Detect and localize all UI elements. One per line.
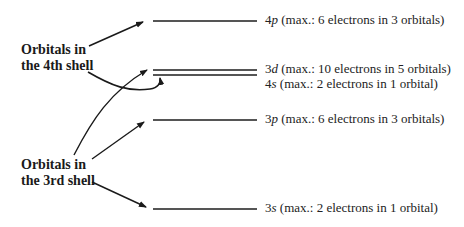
arrow-3rd-to-3p	[92, 122, 144, 159]
arrow-4th-to-4p	[89, 22, 143, 46]
group-label-line1: Orbitals in	[21, 42, 93, 58]
orbital-label-3p: 3p (max.: 6 electrons in 3 orbitals)	[265, 111, 444, 126]
group-label-line2: the 4th shell	[21, 58, 93, 74]
group-label-line2: the 3rd shell	[21, 173, 95, 189]
orbital-label-4p: 4p (max.: 6 electrons in 3 orbitals)	[265, 12, 444, 27]
orbital-label-3d: 3d (max.: 10 electrons in 5 orbitals)	[265, 61, 451, 76]
arrow-3rd-to-3s	[92, 182, 146, 207]
group-label-4th-shell: Orbitals in the 4th shell	[21, 42, 93, 74]
orbital-energy-diagram: Orbitals in the 4th shell Orbitals in th…	[0, 0, 464, 227]
orbital-label-4s: 4s (max.: 2 electrons in 1 orbital)	[265, 76, 438, 91]
orbital-label-3s: 3s (max.: 2 electrons in 1 orbital)	[265, 200, 438, 215]
group-label-line1: Orbitals in	[21, 157, 95, 173]
group-label-3rd-shell: Orbitals in the 3rd shell	[21, 157, 95, 189]
